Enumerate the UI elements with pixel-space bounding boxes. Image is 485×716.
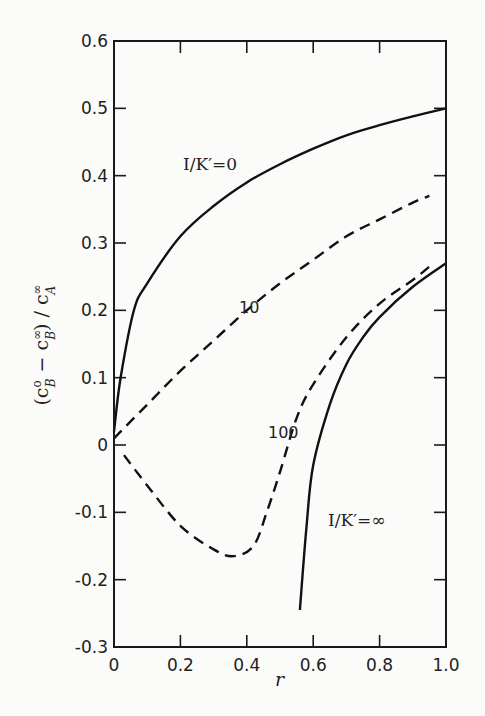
- y-tick-label: 0.3: [81, 233, 108, 253]
- axis-ticks: 00.20.40.60.81.0-0.3-0.2-0.100.10.20.30.…: [75, 31, 460, 675]
- y-tick-label: 0.5: [81, 98, 108, 118]
- label-curve-100: 100: [268, 423, 299, 442]
- x-tick-label: 0.4: [233, 655, 260, 675]
- y-tick-label: 0.6: [81, 31, 108, 51]
- y-tick-label: 0.4: [81, 166, 108, 186]
- plot-frame: [114, 41, 446, 647]
- y-axis-title: (coB − c∞B) / c∞A: [30, 284, 58, 405]
- x-axis-title: r: [275, 668, 286, 690]
- label-curve-10: 10: [239, 298, 259, 317]
- curve-10: [114, 196, 429, 438]
- svg-text:(coB − c∞B) / c∞A: (coB − c∞B) / c∞A: [30, 284, 58, 405]
- y-tick-label: 0.2: [81, 300, 108, 320]
- label-curve-0: I/K′=0: [183, 154, 237, 174]
- curves: [114, 108, 446, 610]
- y-tick-label: -0.2: [75, 570, 108, 590]
- chart: 00.20.40.60.81.0-0.3-0.2-0.100.10.20.30.…: [0, 0, 485, 716]
- y-tick-label: 0.1: [81, 368, 108, 388]
- label-curve-inf: I/K′=∞: [328, 510, 385, 530]
- curve-i-k-: [300, 263, 446, 610]
- x-tick-label: 0.2: [167, 655, 194, 675]
- y-tick-label: 0: [97, 435, 108, 455]
- y-tick-label: -0.1: [75, 502, 108, 522]
- y-tick-label: -0.3: [75, 637, 108, 657]
- curve-i-k-0: [114, 108, 446, 431]
- x-tick-label: 0.8: [366, 655, 393, 675]
- x-tick-label: 0: [109, 655, 120, 675]
- x-tick-label: 1.0: [432, 655, 459, 675]
- x-tick-label: 0.6: [300, 655, 327, 675]
